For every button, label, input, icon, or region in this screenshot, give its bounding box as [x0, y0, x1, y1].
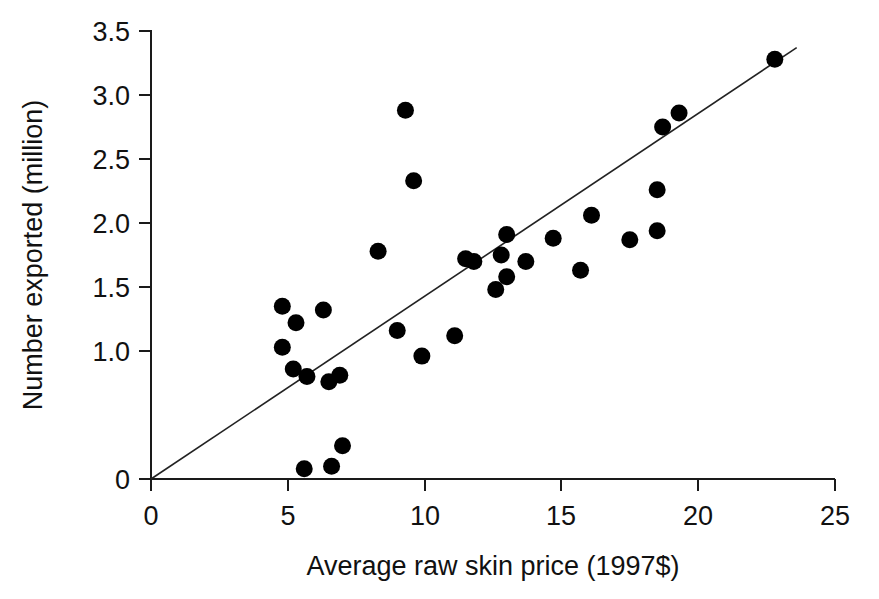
x-tick-label-5: 5: [280, 501, 295, 531]
x-axis-ticks: [151, 479, 835, 491]
x-axis-tick-labels: 0 5 10 15 20 25: [143, 501, 850, 531]
data-point: [298, 368, 315, 385]
data-point: [413, 348, 430, 365]
data-point: [766, 51, 783, 68]
data-point: [446, 327, 463, 344]
x-axis-title: Average raw skin price (1997$): [306, 551, 679, 581]
x-tick-label-20: 20: [683, 501, 713, 531]
x-tick-label-25: 25: [820, 501, 850, 531]
y-axis-group: 3.5 3.0 2.5 2.0 1.5 1.0 0 Number exporte…: [18, 17, 151, 495]
data-point: [405, 172, 422, 189]
y-tick-label-2.5: 2.5: [92, 145, 130, 175]
data-point: [583, 207, 600, 224]
data-point: [274, 339, 291, 356]
data-point: [315, 302, 332, 319]
data-point: [649, 181, 666, 198]
data-point: [498, 268, 515, 285]
data-point: [331, 367, 348, 384]
data-points-layer: [274, 51, 783, 478]
x-tick-label-10: 10: [410, 501, 440, 531]
data-point: [465, 253, 482, 270]
data-point: [654, 119, 671, 136]
data-point: [370, 243, 387, 260]
plot-canvas: 3.5 3.0 2.5 2.0 1.5 1.0 0 Number exporte…: [0, 0, 879, 599]
data-point: [671, 104, 688, 121]
y-tick-label-2.0: 2.0: [92, 209, 130, 239]
y-tick-label-1.5: 1.5: [92, 273, 130, 303]
y-tick-label-1.0: 1.0: [92, 337, 130, 367]
y-axis-title: Number exported (million): [18, 100, 48, 411]
data-point: [621, 231, 638, 248]
y-tick-label-3.0: 3.0: [92, 81, 130, 111]
data-point: [389, 322, 406, 339]
y-axis-ticks: [139, 31, 151, 479]
scatter-plot-figure: 3.5 3.0 2.5 2.0 1.5 1.0 0 Number exporte…: [0, 0, 879, 599]
x-tick-label-0: 0: [143, 501, 158, 531]
data-point: [274, 298, 291, 315]
data-point: [517, 253, 534, 270]
x-tick-label-15: 15: [546, 501, 576, 531]
y-tick-label-0: 0: [115, 465, 130, 495]
data-point: [649, 222, 666, 239]
data-point: [296, 460, 313, 477]
y-tick-label-3.5: 3.5: [92, 17, 130, 47]
data-point: [323, 458, 340, 475]
data-point: [288, 314, 305, 331]
data-point: [572, 262, 589, 279]
data-point: [397, 102, 414, 119]
y-axis-tick-labels: 3.5 3.0 2.5 2.0 1.5 1.0 0: [92, 17, 130, 495]
data-point: [498, 226, 515, 243]
data-point: [545, 230, 562, 247]
data-point: [334, 437, 351, 454]
x-axis-group: 0 5 10 15 20 25 Average raw skin price (…: [143, 479, 850, 581]
data-point: [493, 247, 510, 264]
